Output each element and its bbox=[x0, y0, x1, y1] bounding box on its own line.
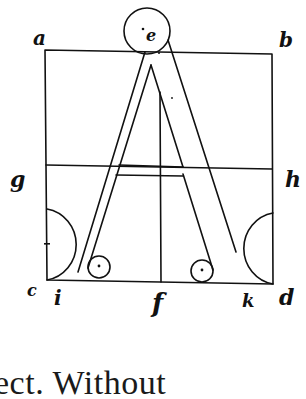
left-foot-center-dot bbox=[98, 265, 101, 268]
letter-a-construction-diagram: a b e g h c i f k d bbox=[0, 0, 306, 340]
label-b: b bbox=[279, 30, 293, 50]
right-foot-center-dot bbox=[201, 269, 204, 272]
label-e: e bbox=[146, 28, 156, 44]
label-c: c bbox=[27, 283, 37, 299]
stray-dot bbox=[171, 97, 173, 99]
a-right-leg-inner-lower bbox=[183, 174, 213, 270]
label-g: g bbox=[10, 168, 25, 190]
label-h: h bbox=[285, 168, 301, 190]
label-f: f bbox=[152, 290, 163, 316]
label-a: a bbox=[33, 28, 46, 48]
a-crossbar-bottom bbox=[116, 175, 183, 176]
caption-text: ect. Without bbox=[0, 366, 166, 399]
label-d: d bbox=[279, 286, 294, 308]
right-semicircle bbox=[244, 213, 273, 284]
a-left-leg-outer bbox=[78, 52, 145, 272]
left-semicircle bbox=[47, 209, 76, 280]
apex-dot bbox=[158, 52, 160, 54]
label-i: i bbox=[54, 288, 62, 308]
top-circle-center-dot bbox=[142, 28, 145, 31]
a-right-leg-outer bbox=[168, 40, 236, 252]
a-right-leg-inner bbox=[151, 65, 183, 167]
label-k: k bbox=[242, 292, 254, 310]
center-vertical-line bbox=[160, 92, 161, 282]
left-tick-mark bbox=[44, 243, 50, 245]
